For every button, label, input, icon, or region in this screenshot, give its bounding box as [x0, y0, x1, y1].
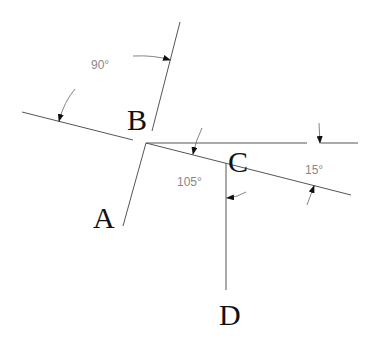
diagram-svg: A B C D 90° 105° 15° [0, 0, 376, 346]
arc-90-left-arrow-icon [59, 89, 75, 121]
angle-label-90: 90° [91, 58, 109, 72]
geometry-diagram: A B C D 90° 105° 15° [0, 0, 376, 346]
arc-15-top-arrow-icon [319, 123, 320, 143]
arc-105-arrow-icon [193, 128, 202, 154]
angle-label-15: 15° [305, 163, 323, 177]
arc-90-right-arrow-icon [133, 56, 170, 60]
arc-15-bottom-arrow-icon [307, 186, 314, 205]
label-d: D [219, 298, 241, 331]
label-a: A [93, 201, 115, 234]
label-b: B [127, 103, 147, 136]
ray-b [152, 22, 180, 131]
arc-d-arrow-icon [227, 192, 246, 198]
angle-label-105: 105° [177, 175, 202, 189]
ray-a [123, 143, 146, 226]
label-c: C [228, 145, 248, 178]
left-ray [22, 112, 133, 140]
